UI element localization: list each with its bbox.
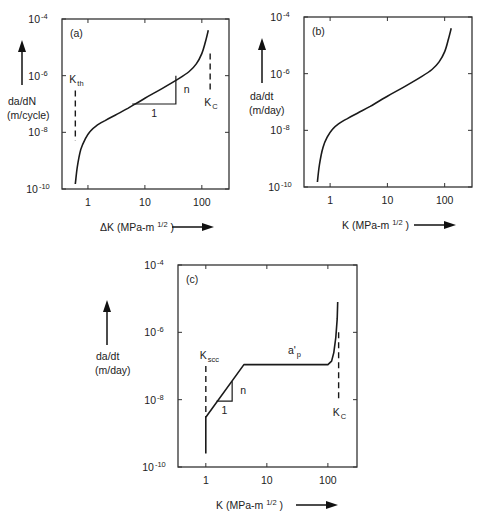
y-tick-label: 10-10 [26, 182, 50, 195]
y-axis-label-line2: (m/day) [95, 364, 131, 376]
y-tick-label: 10-8 [144, 393, 163, 406]
y-axis-label-line1: da/dt [96, 350, 119, 362]
x-axis-label: K (MPa-m 1/2 ) [342, 218, 409, 231]
y-axis-label-line2: (m/cycle) [7, 109, 50, 121]
y-axis-arrow-head-icon [258, 38, 266, 50]
y-axis-arrow-head-icon [18, 40, 26, 52]
y-axis-label-line2: (m/day) [249, 104, 285, 116]
y-tick-label: 10-4 [270, 10, 289, 23]
y-tick-label: 10-4 [28, 12, 47, 25]
slope-rise-label: n [184, 83, 190, 95]
x-tick-label: 100 [436, 194, 454, 206]
panel-label: (c) [186, 273, 198, 285]
x-tick-label: 100 [193, 196, 211, 208]
x-axis-arrow-head-icon [202, 223, 214, 231]
x-axis-label: K (MPa-m 1/2 ) [216, 498, 283, 511]
slope-run-label: 1 [151, 107, 157, 119]
threshold-label-C: KC [204, 96, 218, 111]
panel-c: (c)11010010-1010-810-610-4K (MPa-m 1/2 )… [95, 258, 357, 511]
y-tick-label: 10-4 [144, 258, 163, 271]
slope-rise-label: n [240, 384, 246, 396]
series-line [317, 28, 451, 182]
series-line [75, 30, 208, 184]
y-tick-label: 10-6 [144, 325, 163, 338]
y-axis-label-line1: da/dN [8, 95, 36, 107]
y-tick-label: 10-8 [28, 125, 47, 138]
x-tick-label: 1 [327, 194, 333, 206]
x-tick-label: 1 [203, 474, 209, 486]
series-line [206, 302, 338, 454]
panel-a: (a)11010010-1010-810-610-4ΔK (MPa-m 1/2 … [7, 12, 229, 233]
plot-frame [178, 265, 357, 467]
x-tick-label: 10 [261, 474, 273, 486]
plateau-label: a'p [288, 344, 301, 359]
x-tick-label: 10 [382, 194, 394, 206]
x-axis-arrow-head-icon [444, 221, 456, 229]
y-tick-label: 10-6 [270, 67, 289, 80]
threshold-label-th: Kth [69, 73, 83, 88]
threshold-label-scc: Kscc [200, 349, 220, 364]
y-axis-label-line1: da/dt [250, 90, 273, 102]
panel-label: (b) [312, 25, 325, 37]
y-tick-label: 10-10 [268, 180, 292, 193]
x-tick-label: 1 [85, 196, 91, 208]
y-tick-label: 10-10 [142, 460, 166, 473]
figure: (a)11010010-1010-810-610-4ΔK (MPa-m 1/2 … [0, 0, 482, 520]
slope-triangle [132, 76, 176, 104]
x-tick-label: 100 [319, 474, 337, 486]
x-axis-label: ΔK (MPa-m 1/2 ) [100, 220, 174, 233]
panel-label: (a) [70, 27, 83, 39]
y-tick-label: 10-8 [270, 123, 289, 136]
y-tick-label: 10-6 [28, 69, 47, 82]
panel-b: (b)11010010-1010-810-610-4K (MPa-m 1/2 )… [249, 10, 472, 231]
y-axis-arrow-head-icon [103, 300, 111, 312]
x-axis-arrow-head-icon [326, 501, 338, 509]
x-tick-label: 10 [139, 196, 151, 208]
slope-run-label: 1 [221, 404, 227, 416]
threshold-label-C: KC [333, 406, 347, 421]
